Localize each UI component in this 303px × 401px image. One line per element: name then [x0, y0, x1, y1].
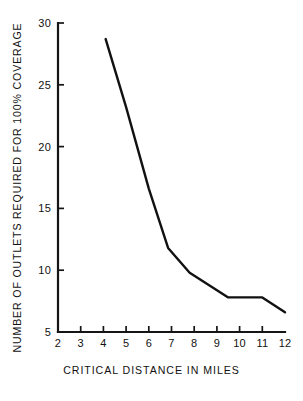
data-series-line: [106, 39, 285, 312]
figure-container: 51015202530 23456789101112 NUMBER OF OUT…: [0, 0, 303, 401]
x-tick-label: 11: [256, 337, 268, 349]
y-tick-label: 25: [38, 79, 51, 91]
x-tick-label: 12: [279, 337, 292, 349]
y-tick-label: 30: [38, 17, 51, 29]
x-tick-label: 9: [214, 337, 220, 349]
x-tick-label: 10: [233, 337, 246, 349]
y-tick-label: 5: [45, 326, 51, 338]
line-chart-plot: 51015202530 23456789101112: [0, 0, 303, 401]
axes: [58, 23, 285, 332]
y-axis-tick-labels: 51015202530: [38, 17, 51, 338]
x-tick-label: 6: [146, 337, 152, 349]
x-tick-label: 8: [191, 337, 197, 349]
y-tick-label: 10: [38, 264, 51, 276]
x-tick-label: 4: [100, 337, 106, 349]
x-tick-label: 3: [78, 337, 84, 349]
x-axis-title: CRITICAL DISTANCE IN MILES: [0, 364, 303, 376]
x-tick-label: 7: [168, 337, 174, 349]
x-tick-label: 2: [55, 337, 61, 349]
x-axis-tick-labels: 23456789101112: [55, 337, 291, 349]
y-tick-label: 15: [38, 202, 51, 214]
x-tick-label: 5: [123, 337, 129, 349]
y-tick-label: 20: [38, 141, 51, 153]
